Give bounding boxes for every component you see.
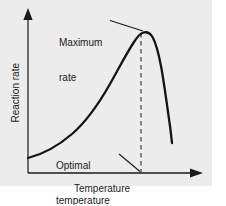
annotation-optimal-temperature-line1: Optimal <box>56 160 110 172</box>
optimal-temperature-leader-line <box>119 154 140 172</box>
x-axis-label: Temperature <box>0 183 204 195</box>
annotation-maximum-rate-line2: rate <box>59 72 102 84</box>
arrow-right-icon <box>190 168 203 177</box>
annotation-maximum-rate-line1: Maximum <box>59 37 102 49</box>
maximum-rate-leader-line <box>110 21 143 32</box>
arrow-up-icon <box>23 8 32 20</box>
y-axis-label: Reaction rate <box>10 48 22 138</box>
annotation-optimal-temperature: Optimal temperature <box>56 137 110 205</box>
annotation-optimal-temperature-line2: temperature <box>56 195 110 206</box>
annotation-maximum-rate: Maximum rate <box>59 14 102 106</box>
figure-container: Maximum rate Optimal temperature Tempera… <box>0 0 226 205</box>
chart-canvas <box>0 0 226 205</box>
